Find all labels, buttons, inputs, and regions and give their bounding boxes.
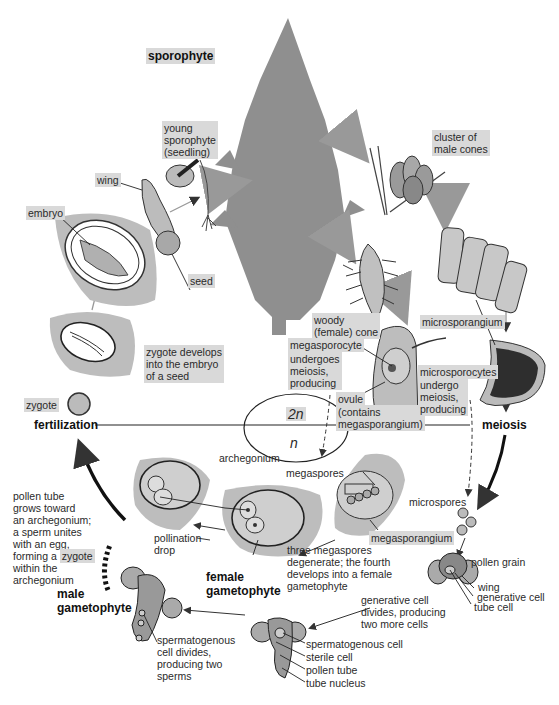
label-pollen-tube-description: pollen tube grows toward an archegonium;…	[13, 490, 95, 586]
label-three-megaspores: three megaspores degenerate; the fourth …	[287, 544, 392, 592]
label-haploid: n	[290, 437, 298, 449]
female-cone-illustration	[346, 244, 398, 320]
label-archegonium: archegonium	[219, 452, 280, 464]
label-microspores: microspores	[409, 496, 466, 508]
label-zygote: zygote	[24, 398, 59, 412]
label-spermatogenous-divides: spermatogenous cell divides, producing t…	[157, 634, 235, 682]
male-cone-cluster	[370, 146, 445, 215]
label-megaspores: megaspores	[286, 467, 344, 479]
label-spermatogenous-cell: spermatogenous cell	[306, 638, 403, 650]
germinating-pollen-illustration	[251, 618, 306, 678]
label-embryo: embryo	[26, 206, 65, 220]
label-pollen-grain: pollen grain	[471, 556, 525, 568]
seed-section-embryo	[53, 206, 158, 306]
label-male-cones: cluster of male cones	[432, 130, 490, 156]
label-megasporangium: megasporangium	[369, 531, 454, 545]
label-sporophyte: sporophyte	[146, 48, 215, 64]
fertilization-ovule-illustration	[133, 458, 210, 531]
megasporangium-illustration	[334, 454, 405, 536]
label-megasporocyte: megasporocyte	[288, 338, 364, 352]
arrow-to-pollen-grain	[458, 538, 465, 556]
label-female-gametophyte: female gametophyte	[206, 570, 281, 598]
dashed-arrow-microspores	[468, 400, 472, 495]
label-zygote-develops: zygote develops into the embryo of a see…	[144, 345, 224, 383]
label-pollination-drop: pollination drop	[154, 532, 201, 556]
arrow-to-male-gametophyte	[185, 610, 245, 615]
label-seed: seed	[188, 274, 215, 288]
label-sterile-cell: sterile cell	[306, 651, 353, 663]
meiosis-arrow	[480, 435, 505, 505]
label-generative-divides: generative cell divides, producing two m…	[361, 594, 446, 630]
pollen-tube-dashed-arrow	[104, 545, 110, 590]
label-diploid: 2n	[286, 407, 306, 421]
label-megasporocyte-desc: undergoes meiosis, producing	[288, 352, 342, 390]
label-ovule-desc: (contains megasporangium)	[336, 405, 425, 431]
pine-tree-illustration	[210, 18, 365, 335]
label-young-sporophyte: young sporophyte (seedling)	[162, 121, 218, 159]
label-woody-cone: woody (female) cone	[312, 313, 380, 339]
zygote-cell	[68, 393, 90, 415]
label-wing: wing	[95, 173, 121, 187]
arrow-to-fertilization-ovule	[195, 525, 225, 530]
label-microsporocytes: microsporocytes	[418, 365, 498, 379]
label-pollen-tube: pollen tube	[306, 664, 357, 676]
microsporangium-illustration	[438, 227, 528, 314]
microspores-illustration	[457, 508, 476, 535]
label-pg-tube-cell: tube cell	[474, 601, 513, 613]
label-meiosis: meiosis	[482, 418, 527, 432]
label-fertilization: fertilization	[34, 418, 98, 432]
zygote-development-illustration	[50, 312, 135, 377]
label-microsporocytes-desc: undergo meiosis, producing	[418, 378, 468, 416]
label-male-gametophyte: male gametophyte	[57, 587, 132, 615]
label-tube-nucleus: tube nucleus	[306, 677, 366, 689]
label-ovule: ovule	[336, 392, 365, 406]
label-zygote-highlight: zygote	[60, 549, 95, 563]
label-microsporangium: microsporangium	[420, 315, 505, 329]
seedling-illustration	[166, 160, 216, 231]
